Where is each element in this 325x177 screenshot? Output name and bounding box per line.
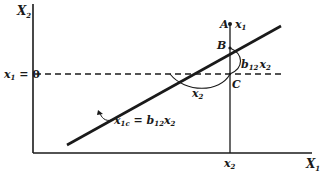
vertical-segment-label: b12x2 — [241, 58, 271, 72]
pointer-arrowhead-icon — [97, 110, 103, 115]
horizontal-brace-arc — [170, 74, 230, 88]
point-a-value-label: x1 — [234, 18, 246, 32]
regression-diagram: X2 X1 x1 = 0 A x1 B C b12x2 x2 x2 x1c = … — [0, 0, 325, 177]
point-a-label: A — [219, 18, 229, 31]
point-c-label: C — [232, 78, 241, 91]
y-axis-label: X2 — [16, 4, 31, 20]
x-axis-label: X1 — [305, 157, 320, 173]
point-a — [228, 22, 232, 26]
point-b-label: B — [216, 39, 226, 52]
horizontal-segment-label: x2 — [191, 87, 204, 101]
x-tick-label: x2 — [223, 157, 236, 171]
reference-line-label: x1 = 0 — [3, 68, 40, 82]
regression-equation-label: x1c = b12x2 — [113, 114, 176, 128]
